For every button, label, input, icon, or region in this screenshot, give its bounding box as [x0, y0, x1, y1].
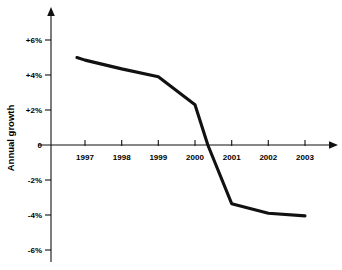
annual-growth-line-chart: +6% +4% +2% 0 -2% -4% -6% 1997 1998 1999… — [0, 0, 342, 270]
chart-canvas: +6% +4% +2% 0 -2% -4% -6% 1997 1998 1999… — [0, 0, 342, 270]
y-tick-label-minus2: -2% — [28, 176, 42, 185]
y-axis-title: Annual growth — [5, 105, 16, 172]
y-tick-label-minus6: -6% — [28, 246, 42, 255]
x-tick-label-2001: 2001 — [223, 153, 241, 162]
x-tick-label-1999: 1999 — [149, 153, 167, 162]
x-tick-label-1998: 1998 — [113, 153, 131, 162]
data-series-line — [77, 58, 305, 216]
x-tick-label-2002: 2002 — [259, 153, 277, 162]
y-axis-up-arrow-icon — [47, 7, 55, 16]
x-tick-label-2003: 2003 — [296, 153, 314, 162]
y-tick-label-plus6: +6% — [26, 36, 42, 45]
x-tick-label-1997: 1997 — [76, 153, 94, 162]
y-tick-label-zero: 0 — [38, 141, 43, 150]
y-tick-label-plus4: +4% — [26, 71, 42, 80]
x-axis-right-arrow-icon — [329, 141, 338, 149]
x-tick-label-2000: 2000 — [186, 153, 204, 162]
y-tick-label-minus4: -4% — [28, 211, 42, 220]
y-tick-label-plus2: +2% — [26, 106, 42, 115]
